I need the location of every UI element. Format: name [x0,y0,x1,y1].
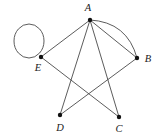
edge-group-loops [14,24,44,58]
node-c[interactable] [117,115,121,119]
node-a[interactable] [88,18,92,22]
edge-a-d [60,20,90,115]
edge-a-e [41,20,90,57]
graph-figure: A B C D E [0,0,164,137]
node-label-e: E [34,62,42,73]
edge-b-d [60,58,137,115]
edge-a-c [90,20,119,117]
graph-canvas: A B C D E [0,0,164,137]
node-label-b: B [145,53,152,64]
node-d[interactable] [58,113,62,117]
node-label-a: A [84,2,92,13]
edge-e-c [41,57,119,117]
node-e[interactable] [39,55,43,59]
node-group [39,18,139,119]
node-label-d: D [55,122,64,133]
node-b[interactable] [135,56,139,60]
self-loop-edge-e [14,24,44,58]
edge-group-straight [41,20,137,117]
node-label-c: C [115,123,123,134]
